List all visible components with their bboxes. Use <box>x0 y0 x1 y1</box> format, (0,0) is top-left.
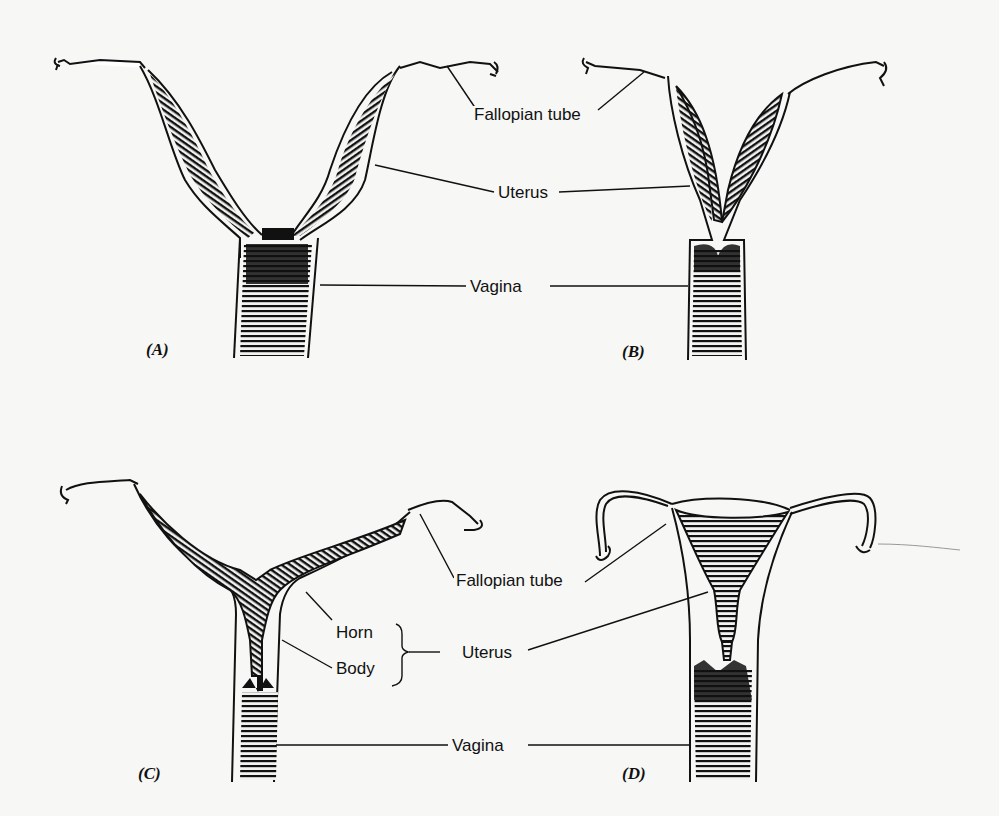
panel-a-drawing <box>55 58 498 358</box>
label-fallopian-tube-top: Fallopian tube <box>472 106 583 123</box>
label-horn: Horn <box>334 624 375 641</box>
panel-label-d: (D) <box>622 764 646 784</box>
panel-b-drawing <box>583 58 887 360</box>
label-uterus-bottom: Uterus <box>460 644 514 661</box>
panel-c-drawing <box>61 480 482 782</box>
label-vagina-bottom: Vagina <box>450 737 506 754</box>
panel-label-a: (A) <box>146 340 169 360</box>
panel-label-c: (C) <box>138 764 161 784</box>
label-fallopian-tube-bottom: Fallopian tube <box>454 572 565 589</box>
label-uterus-top: Uterus <box>496 184 550 201</box>
panel-label-b: (B) <box>622 342 645 362</box>
label-body: Body <box>334 660 377 677</box>
label-vagina-top: Vagina <box>468 278 524 295</box>
uterus-types-diagram: Fallopian tube Uterus Vagina Fallopian t… <box>0 0 999 816</box>
